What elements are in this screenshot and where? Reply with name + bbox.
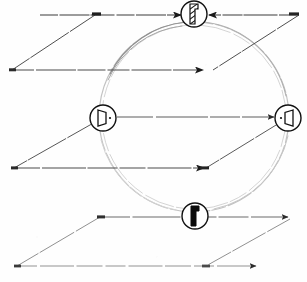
bottom-plane-corner-nw [97,215,105,218]
diagram-canvas: Three stacked parallelogram planes inter… [0,0,307,282]
middle-plane-corner-se [200,166,209,169]
top-plane [9,12,299,71]
top-plane-left-edge [12,15,95,70]
bottom-plane [14,215,290,267]
top-plane-corner-ne [289,12,299,15]
top-plane-corner-sw [9,68,16,71]
marker-bottom[interactable] [182,203,208,229]
bottom-plane-corner-sw [14,265,21,268]
top-plane-right-edge [213,15,299,70]
marker-top[interactable] [181,1,207,32]
bottom-plane-right-edge [206,219,290,266]
marker-right[interactable] [275,105,301,131]
middle-plane-left-edge [14,121,97,168]
bottom-plane-corner-se [202,265,210,268]
marker-left[interactable] [90,105,116,131]
diagram-svg [0,0,307,282]
middle-plane-right-edge [206,122,281,168]
middle-plane [11,117,281,169]
middle-plane-corner-sw [11,166,18,169]
top-plane-corner-nw [92,12,101,15]
bottom-plane-left-edge [17,217,100,266]
